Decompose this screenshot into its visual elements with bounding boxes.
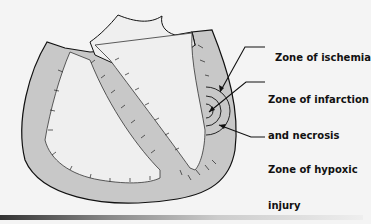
label-hypoxic-line2: injury bbox=[268, 200, 358, 212]
scan-edge bbox=[0, 215, 363, 220]
label-hypoxic-line1: Zone of hypoxic bbox=[268, 164, 358, 176]
label-infarction-line1: Zone of infarction bbox=[268, 94, 369, 106]
label-ischemia-text: Zone of ischemia bbox=[275, 52, 371, 63]
label-zone-ischemia: Zone of ischemia bbox=[268, 40, 371, 64]
label-zone-hypoxic: Zone of hypoxic injury bbox=[268, 140, 358, 224]
